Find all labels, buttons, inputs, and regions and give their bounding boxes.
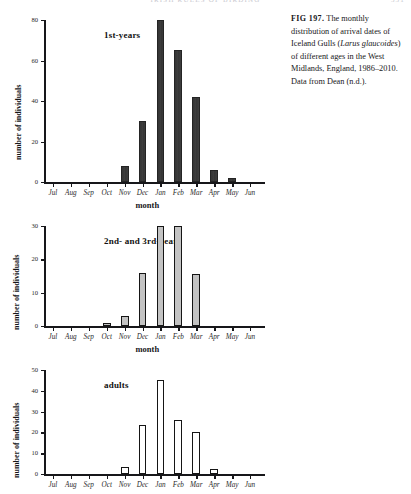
x-axis-tick <box>196 183 197 187</box>
y-axis-tick-label: 30 <box>16 222 38 229</box>
figure-label: FIG 197. <box>291 14 324 23</box>
x-axis-tick <box>178 327 179 331</box>
x-axis-label: month <box>136 344 160 354</box>
x-axis-tick <box>232 475 233 479</box>
x-axis-tick <box>160 475 161 479</box>
x-axis-tick <box>143 327 144 331</box>
bar <box>121 166 129 182</box>
x-axis-tick <box>232 327 233 331</box>
x-axis-tick <box>232 183 233 187</box>
x-axis-tick <box>250 183 251 187</box>
series-title: 2nd- and 3rd-years <box>104 236 181 246</box>
y-axis-tick <box>41 182 45 183</box>
y-axis-label: number of individuals <box>14 85 23 160</box>
x-axis-tick <box>250 327 251 331</box>
bar <box>192 432 200 474</box>
series-title: 1st-years <box>104 30 140 40</box>
x-axis-tick <box>160 183 161 187</box>
x-axis-tick <box>53 183 54 187</box>
y-axis-line <box>44 370 46 475</box>
bar <box>174 50 182 182</box>
bar <box>210 469 218 474</box>
page-number: 331 <box>391 0 405 4</box>
figure-caption: FIG 197. The monthly distribution of arr… <box>291 13 409 89</box>
y-axis-tick <box>41 20 45 21</box>
y-axis-tick <box>41 259 45 260</box>
x-axis-tick <box>125 183 126 187</box>
y-axis-tick-label: 50 <box>16 366 38 373</box>
y-axis-tick-label: 10 <box>16 289 38 296</box>
bar <box>139 273 147 326</box>
x-axis-tick <box>125 327 126 331</box>
x-axis-tick <box>125 475 126 479</box>
y-axis-tick <box>41 432 45 433</box>
y-axis-tick <box>41 61 45 62</box>
x-axis-tick <box>53 475 54 479</box>
bar <box>139 425 147 474</box>
bar <box>174 226 182 326</box>
y-axis-tick <box>41 293 45 294</box>
x-axis-tick <box>71 475 72 479</box>
y-axis-tick-label: 0 <box>16 470 38 477</box>
x-axis-tick <box>178 183 179 187</box>
bar <box>157 20 165 182</box>
y-axis-tick-label: 30 <box>16 408 38 415</box>
y-axis-tick-label: 0 <box>16 178 38 185</box>
y-axis-tick <box>41 412 45 413</box>
x-axis-tick <box>71 183 72 187</box>
x-axis-tick <box>178 475 179 479</box>
y-axis-tick-label: 80 <box>16 16 38 23</box>
chart-1st-years: number of individuals1st-years020406080J… <box>0 12 280 212</box>
x-axis-tick <box>160 327 161 331</box>
x-axis-tick <box>143 183 144 187</box>
x-axis-tick <box>214 475 215 479</box>
y-axis-tick <box>41 226 45 227</box>
x-axis-tick <box>143 475 144 479</box>
x-axis-tick <box>89 327 90 331</box>
y-axis-tick <box>41 474 45 475</box>
x-axis-label: month <box>136 200 160 210</box>
x-axis-tick <box>107 475 108 479</box>
figure-page: IRISH RULES OF BIRDING 331 FIG 197. The … <box>0 0 411 494</box>
x-axis-tick-label: Jun <box>234 189 266 197</box>
x-axis-tick <box>196 327 197 331</box>
y-axis-tick-label: 20 <box>16 428 38 435</box>
x-axis-tick-label: Jun <box>234 481 266 489</box>
bar <box>192 97 200 182</box>
bar <box>139 121 147 182</box>
running-header-text: IRISH RULES OF BIRDING <box>150 0 260 4</box>
y-axis-tick-label: 40 <box>16 387 38 394</box>
chart-2nd-and-3rd-years: number of individuals2nd- and 3rd-years0… <box>0 218 280 360</box>
y-axis-tick-label: 10 <box>16 449 38 456</box>
species-name: Larus glaucoides <box>340 39 397 48</box>
y-axis-tick-label: 20 <box>16 138 38 145</box>
y-axis-tick <box>41 391 45 392</box>
bar <box>157 226 165 326</box>
y-axis-tick <box>41 326 45 327</box>
bar <box>210 170 218 182</box>
x-axis-tick-label: Jun <box>234 333 266 341</box>
running-header: IRISH RULES OF BIRDING 331 <box>0 0 411 10</box>
y-axis-tick <box>41 453 45 454</box>
bar <box>121 467 129 474</box>
series-title: adults <box>104 380 129 390</box>
bar <box>157 380 165 474</box>
chart-adults: number of individualsadults01020304050Ju… <box>0 362 280 494</box>
x-axis-tick <box>53 327 54 331</box>
x-axis-tick <box>250 475 251 479</box>
x-axis-tick <box>214 327 215 331</box>
x-axis-tick <box>107 327 108 331</box>
y-axis-tick-label: 0 <box>16 322 38 329</box>
x-axis-tick <box>214 183 215 187</box>
y-axis-tick-label: 60 <box>16 57 38 64</box>
bar <box>192 274 200 326</box>
bar <box>121 316 129 326</box>
bar <box>228 178 236 182</box>
x-axis-tick <box>71 327 72 331</box>
y-axis-tick-label: 20 <box>16 255 38 262</box>
y-axis-tick <box>41 142 45 143</box>
x-axis-tick <box>196 475 197 479</box>
bar <box>174 420 182 474</box>
y-axis-tick <box>41 101 45 102</box>
x-axis-tick <box>89 183 90 187</box>
